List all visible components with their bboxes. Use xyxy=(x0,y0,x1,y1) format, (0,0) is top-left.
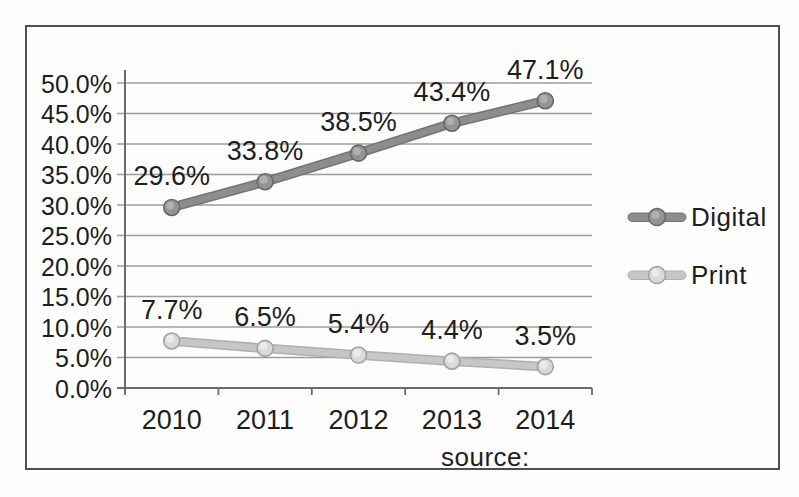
x-tick-label: 2010 xyxy=(142,405,202,435)
source-label: source: xyxy=(441,442,530,473)
data-label-digital: 47.1% xyxy=(507,55,584,85)
x-tick-label: 2014 xyxy=(515,405,575,435)
data-point-highlight-digital xyxy=(260,176,268,184)
data-point-highlight-digital xyxy=(446,117,454,125)
y-tick-label: 40.0% xyxy=(41,131,112,159)
y-tick-label: 50.0% xyxy=(41,70,112,98)
data-point-highlight-print xyxy=(353,349,361,357)
data-label-print: 4.4% xyxy=(421,315,483,345)
line-chart-canvas: 0.0%5.0%10.0%15.0%20.0%25.0%30.0%35.0%40… xyxy=(0,0,799,497)
scanned-chart-page: 0.0%5.0%10.0%15.0%20.0%25.0%30.0%35.0%40… xyxy=(0,0,799,497)
x-tick-label: 2012 xyxy=(328,405,388,435)
data-point-highlight-print xyxy=(166,335,174,343)
y-tick-label: 0.0% xyxy=(55,375,112,403)
data-point-highlight-digital xyxy=(166,201,174,209)
data-point-highlight-digital xyxy=(353,147,361,155)
data-point-highlight-digital xyxy=(540,95,548,103)
data-label-digital: 43.4% xyxy=(414,77,491,107)
legend-label-print: Print xyxy=(691,260,747,291)
y-tick-label: 5.0% xyxy=(55,344,112,372)
data-label-print: 3.5% xyxy=(515,321,577,351)
x-tick-label: 2013 xyxy=(422,405,482,435)
y-tick-label: 25.0% xyxy=(41,222,112,250)
data-label-digital: 29.6% xyxy=(133,161,210,191)
data-point-highlight-print xyxy=(446,355,454,363)
data-label-print: 7.7% xyxy=(141,295,203,325)
y-tick-label: 15.0% xyxy=(41,283,112,311)
chart-frame xyxy=(26,26,779,469)
legend-item-print: Print xyxy=(627,255,747,295)
legend-label-digital: Digital xyxy=(691,202,767,233)
legend-item-digital: Digital xyxy=(627,197,767,237)
y-tick-label: 45.0% xyxy=(41,100,112,128)
x-tick-label: 2011 xyxy=(236,405,294,435)
data-label-digital: 33.8% xyxy=(227,136,304,166)
y-tick-label: 20.0% xyxy=(41,253,112,281)
data-label-print: 6.5% xyxy=(234,302,296,332)
data-point-highlight-print xyxy=(260,342,268,350)
y-tick-label: 10.0% xyxy=(41,314,112,342)
y-tick-label: 30.0% xyxy=(41,192,112,220)
legend-swatch-print-icon xyxy=(627,264,689,286)
y-tick-label: 35.0% xyxy=(41,161,112,189)
legend-swatch-digital-icon xyxy=(627,206,689,228)
data-label-digital: 38.5% xyxy=(320,107,397,137)
data-label-print: 5.4% xyxy=(328,309,390,339)
data-point-highlight-print xyxy=(540,361,548,369)
